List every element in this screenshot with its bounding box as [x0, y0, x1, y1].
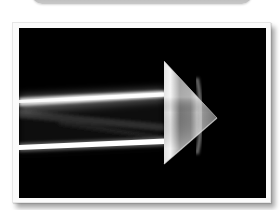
prism-photo [19, 28, 266, 198]
prism-photo-graphic [19, 28, 266, 198]
previous-card-edge [32, 0, 252, 4]
page-canvas [0, 0, 280, 210]
prism [164, 61, 217, 164]
photo-card [12, 22, 271, 203]
